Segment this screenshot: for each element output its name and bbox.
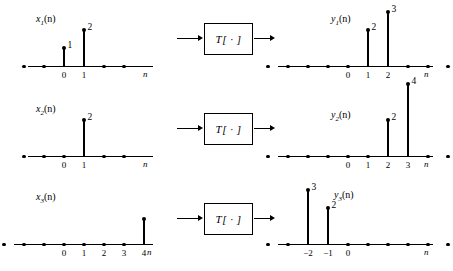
output-signal-label: y2(n) [331,110,351,123]
axis-tick-label: 0 [340,161,356,170]
axis-tick-label: 0 [56,161,72,170]
stem-head-dot [82,118,86,122]
operator-output-arrowhead [270,125,275,131]
zero-sample-dot [42,243,46,247]
signal-name-argument: (n) [342,189,354,200]
axis-tick-label: 0 [340,249,356,258]
axis-tick-label: −2 [300,249,316,258]
stem-value-label: 3 [312,183,317,193]
zero-sample-dot [346,65,350,69]
axis-tick-label: 2 [96,249,112,258]
zero-sample-dot [122,243,126,247]
axis-tick-label: 1 [76,249,92,258]
stem-value-label: 2 [392,113,397,123]
zero-sample-dot [62,243,66,247]
zero-sample-dot [346,155,350,159]
axis-name-n: n [143,70,148,79]
zero-sample-dot [102,65,106,69]
input-plot: x1(n)n1201 [0,0,175,90]
operator-output-arrow [254,218,271,219]
zero-sample-dot [102,155,106,159]
zero-sample-dot [286,65,290,69]
zero-sample-dot [102,243,106,247]
zero-sample-dot [62,155,66,159]
input-signal-label: x2(n) [36,104,56,117]
zero-sample-dot [426,243,430,247]
signal-name-argument: (n) [44,103,56,114]
input-signal-label: x3(n) [36,192,56,205]
zero-sample-dot [306,155,310,159]
signal-name-argument: (n) [339,13,351,24]
zero-sample-dot [286,243,290,247]
output-plot: y1(n)n23012 [278,0,453,90]
zero-sample-dot [286,155,290,159]
axis-name-n: n [424,160,429,169]
stem-line [327,208,328,244]
stem-line [387,12,388,66]
stem-value-label: 2 [332,201,337,211]
signal-name-argument: (n) [339,109,351,120]
stem-head-dot [62,46,66,50]
axis-tick-label: 4 [136,249,152,258]
zero-sample-dot [42,65,46,69]
zero-sample-dot [346,243,350,247]
zero-sample-dot [366,243,370,247]
operator-output-arrowhead [270,215,275,221]
stem-line [143,219,144,244]
operator-box[interactable]: T[ · ] [204,113,253,145]
zero-sample-dot [2,243,6,247]
stem-line [83,120,84,156]
axis-tick-label: 0 [340,71,356,80]
operator-output-arrow [254,38,271,39]
zero-sample-dot [122,155,126,159]
zero-sample-dot [326,155,330,159]
zero-sample-dot [306,65,310,69]
operator-input-arrow [177,38,199,39]
axis-tick-label: 0 [56,249,72,258]
stem-value-label: 2 [372,23,377,33]
stem-value-label: 4 [412,77,417,87]
axis-tick-label: −1 [320,249,336,258]
input-signal-label: x1(n) [36,14,56,27]
axis-name-n: n [143,160,148,169]
axis-line [278,156,433,157]
zero-sample-dot [446,65,450,69]
zero-sample-dot [446,155,450,159]
axis-name-n: n [424,248,429,257]
zero-sample-dot [426,65,430,69]
operator-input-arrow [177,218,199,219]
zero-sample-dot [366,155,370,159]
signal-row: x3(n)n01234T[ · ]y3(n)n32−2−10 [0,180,453,270]
output-plot: y2(n)n240123 [278,90,453,180]
zero-sample-dot [22,65,26,69]
operator-output-arrow [254,128,271,129]
stem-line [83,30,84,66]
axis-tick-label: 3 [400,161,416,170]
stem-value-label: 2 [88,23,93,33]
operator-input-arrowhead [198,125,203,131]
output-signal-label: y3(n) [334,190,354,203]
stem-head-dot [326,206,330,210]
operator-output-arrowhead [270,35,275,41]
axis-tick-label: 2 [380,71,396,80]
stem-head-dot [366,28,370,32]
zero-sample-dot [446,243,450,247]
stem-head-dot [82,28,86,32]
stem-value-label: 3 [392,5,397,15]
axis-tick-label: 3 [116,249,132,258]
operator-box[interactable]: T[ · ] [204,203,253,235]
stem-value-label: 2 [88,113,93,123]
zero-sample-dot [82,243,86,247]
signal-row: x2(n)n201T[ · ]y2(n)n240123 [0,90,453,180]
operator-input-arrowhead [198,35,203,41]
operator-box[interactable]: T[ · ] [204,23,253,55]
stem-value-label: 1 [68,41,73,51]
axis-tick-label: 0 [56,71,72,80]
operator-group: T[ · ] [175,180,278,270]
zero-sample-dot [326,65,330,69]
stem-line [367,30,368,66]
stem-head-dot [306,188,310,192]
operator-group: T[ · ] [175,0,278,90]
zero-sample-dot [42,155,46,159]
zero-sample-dot [386,243,390,247]
